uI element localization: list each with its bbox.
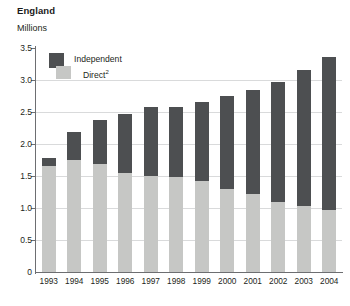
bar-segment-direct <box>220 189 234 272</box>
bar-1999 <box>195 102 209 272</box>
axis-unit-label: Millions <box>17 23 47 33</box>
bar-segment-independent <box>297 70 311 206</box>
bar-2003 <box>297 70 311 272</box>
bar-segment-independent <box>322 57 336 210</box>
y-axis-label: 3.0 <box>2 76 32 85</box>
bar-1994 <box>67 132 81 272</box>
chart-legend: Independent Direct2 <box>49 53 122 82</box>
bar-2004 <box>322 57 336 272</box>
x-axis-label-1995: 1995 <box>86 277 114 286</box>
bar-1995 <box>93 120 107 272</box>
bar-segment-independent <box>246 90 260 194</box>
bar-segment-direct <box>67 160 81 272</box>
bar-segment-independent <box>220 96 234 189</box>
x-axis-label-1999: 1999 <box>188 277 216 286</box>
x-axis-label-2000: 2000 <box>213 277 241 286</box>
bar-2001 <box>246 90 260 272</box>
bar-1993 <box>42 158 56 272</box>
bar-segment-direct <box>271 202 285 272</box>
legend-swatch-direct <box>56 66 71 79</box>
bar-segment-independent <box>93 120 107 165</box>
bar-1998 <box>169 107 183 272</box>
bar-segment-direct <box>297 206 311 272</box>
bar-segment-direct <box>93 164 107 272</box>
x-axis-label-2004: 2004 <box>315 277 343 286</box>
bar-segment-independent <box>118 114 132 174</box>
y-axis-label: 1.0 <box>2 204 32 213</box>
bar-segment-independent <box>271 82 285 202</box>
x-axis-label-2001: 2001 <box>239 277 267 286</box>
legend-label-independent: Independent <box>74 53 122 66</box>
bar-2000 <box>220 96 234 272</box>
x-axis-label-1998: 1998 <box>162 277 190 286</box>
legend-label-group: Independent Direct2 <box>74 53 122 82</box>
y-axis-label: 2.5 <box>2 108 32 117</box>
x-axis-label-1993: 1993 <box>35 277 63 286</box>
bar-segment-direct <box>144 176 158 272</box>
bar-segment-independent <box>67 132 81 160</box>
bar-segment-direct <box>118 173 132 272</box>
y-axis-label: 1.5 <box>2 172 32 181</box>
legend-label-direct: Direct2 <box>74 66 122 82</box>
y-axis-label: 3.5 <box>2 44 32 53</box>
bar-segment-independent <box>42 158 56 166</box>
legend-footnote-marker: 2 <box>105 69 108 75</box>
bar-1997 <box>144 107 158 272</box>
x-axis-label-2002: 2002 <box>264 277 292 286</box>
x-axis-label-1996: 1996 <box>111 277 139 286</box>
bar-segment-direct <box>246 194 260 272</box>
bar-segment-direct <box>195 181 209 272</box>
bar-segment-independent <box>144 107 158 176</box>
x-axis-label-1997: 1997 <box>137 277 165 286</box>
bar-segment-direct <box>169 177 183 272</box>
bar-segment-direct <box>42 166 56 272</box>
bar-2002 <box>271 82 285 272</box>
chart-container: England Millions Independent Direct2 00.… <box>0 0 350 306</box>
bar-1996 <box>118 114 132 272</box>
bar-segment-independent <box>169 107 183 177</box>
legend-label-direct-text: Direct <box>83 70 105 80</box>
y-axis-label: 0 <box>2 268 32 277</box>
y-axis-label: 0.5 <box>2 236 32 245</box>
x-axis-label-2003: 2003 <box>290 277 318 286</box>
bar-segment-independent <box>195 102 209 181</box>
y-axis-label: 2.0 <box>2 140 32 149</box>
bar-segment-direct <box>322 210 336 272</box>
x-axis-label-1994: 1994 <box>60 277 88 286</box>
x-axis-line <box>35 272 343 273</box>
page-title: England <box>17 5 55 16</box>
legend-swatch-group <box>49 53 71 79</box>
